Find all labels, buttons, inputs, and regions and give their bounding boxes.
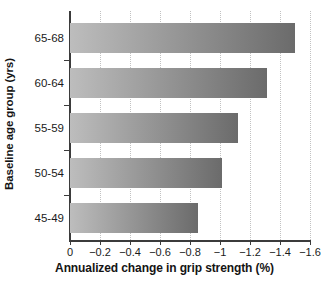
y-axis-tick xyxy=(64,60,69,61)
x-tick-label-4: −0.8 xyxy=(179,246,201,258)
x-axis-tick xyxy=(70,240,71,245)
y-tick-label-group: 65-6860-6455-5950-5445-49 xyxy=(18,15,68,240)
y-tick-label-50-54: 50-54 xyxy=(35,158,64,188)
bar-55-59 xyxy=(70,113,238,143)
x-tick-label-8: −1.6 xyxy=(299,246,321,258)
x-axis-tick xyxy=(220,240,221,245)
y-axis-title-text: Baseline age group (yrs) xyxy=(3,58,15,190)
x-tick-label-6: −1.2 xyxy=(239,246,261,258)
x-tick-label-0: 0 xyxy=(67,246,73,258)
x-tick-label-5: −1 xyxy=(214,246,227,258)
x-tick-label-3: −0.6 xyxy=(149,246,171,258)
y-tick-label-55-59: 55-59 xyxy=(35,113,64,143)
x-axis-tick xyxy=(100,240,101,245)
bar-50-54 xyxy=(70,158,222,188)
x-axis-tick xyxy=(310,240,311,245)
x-axis-tick xyxy=(130,240,131,245)
grip-strength-bar-chart: Baseline age group (yrs) 65-6860-6455-59… xyxy=(0,0,329,284)
y-axis-tick xyxy=(64,195,69,196)
x-tick-label-7: −1.4 xyxy=(269,246,291,258)
y-axis-title: Baseline age group (yrs) xyxy=(0,0,18,248)
x-axis-tick xyxy=(250,240,251,245)
gridline xyxy=(310,11,311,240)
x-tick-label-1: −0.2 xyxy=(89,246,111,258)
y-axis-tick xyxy=(64,105,69,106)
y-tick-label-60-64: 60-64 xyxy=(35,68,64,98)
x-axis-tick xyxy=(160,240,161,245)
y-tick-label-45-49: 45-49 xyxy=(35,203,64,233)
y-tick-label-65-68: 65-68 xyxy=(35,23,64,53)
x-axis-tick xyxy=(190,240,191,245)
y-axis-tick xyxy=(64,150,69,151)
x-tick-label-2: −0.4 xyxy=(119,246,141,258)
x-axis-title: Annualized change in grip strength (%) xyxy=(0,261,329,275)
x-axis-tick xyxy=(280,240,281,245)
bar-45-49 xyxy=(70,203,198,233)
bar-65-68 xyxy=(70,23,295,53)
bar-60-64 xyxy=(70,68,267,98)
plot-area xyxy=(70,15,310,240)
